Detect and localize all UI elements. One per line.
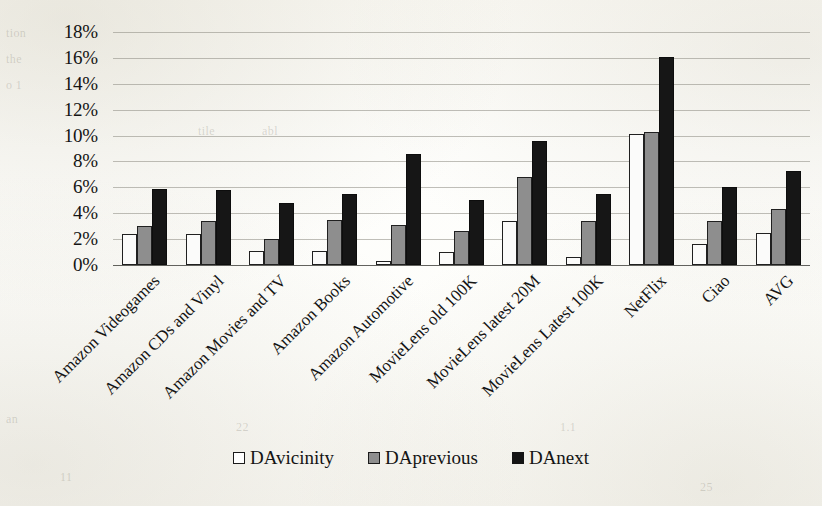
bar-davicinity[interactable]	[756, 233, 771, 265]
legend-item-label: DAprevious	[385, 448, 478, 467]
bar-group	[176, 32, 239, 265]
bar-group	[240, 32, 303, 265]
bar-groups	[113, 32, 810, 265]
y-axis-tick-label: 6%	[73, 177, 98, 196]
bar-group	[620, 32, 683, 265]
bar-daprevious[interactable]	[771, 209, 786, 265]
bar-daprevious[interactable]	[581, 221, 596, 265]
bar-davicinity[interactable]	[186, 234, 201, 265]
bar-davicinity[interactable]	[692, 244, 707, 265]
y-axis-tick-label: 12%	[64, 100, 98, 119]
bar-group	[113, 32, 176, 265]
bar-daprevious[interactable]	[454, 231, 469, 265]
x-axis-tick-label: Amazon Movies and TV	[160, 272, 290, 402]
bar-daprevious[interactable]	[264, 239, 279, 265]
bar-danext[interactable]	[722, 187, 737, 265]
y-axis-tick-label: 14%	[64, 74, 98, 93]
legend-item[interactable]: DAprevious	[368, 448, 478, 467]
legend-swatch-previous	[368, 452, 380, 464]
bar-davicinity[interactable]	[439, 252, 454, 265]
bar-daprevious[interactable]	[644, 132, 659, 265]
y-axis-tick-label: 18%	[64, 22, 98, 41]
y-axis-tick-label: 10%	[64, 126, 98, 145]
bar-danext[interactable]	[596, 194, 611, 265]
x-axis-tick-label: Ciao	[699, 272, 733, 306]
x-axis-tick-label: MovieLens old 100K	[366, 272, 480, 386]
y-axis-tick-label: 8%	[73, 152, 98, 171]
bar-group	[747, 32, 810, 265]
bar-davicinity[interactable]	[566, 257, 581, 265]
bar-davicinity[interactable]	[312, 251, 327, 265]
legend-swatch-next	[512, 452, 524, 464]
y-axis-tick-label: 16%	[64, 48, 98, 67]
legend-item-label: DAvicinity	[250, 448, 334, 467]
bar-davicinity[interactable]	[122, 234, 137, 265]
bar-davicinity[interactable]	[376, 261, 391, 265]
bar-danext[interactable]	[659, 57, 674, 265]
x-axis-baseline	[113, 265, 810, 266]
bar-danext[interactable]	[786, 171, 801, 265]
bar-davicinity[interactable]	[502, 221, 517, 265]
y-axis-tick-label: 0%	[73, 255, 98, 274]
bar-daprevious[interactable]	[201, 221, 216, 265]
bar-group	[366, 32, 429, 265]
y-axis: 18%16%14%12%10%8%6%4%2%0%	[30, 32, 104, 265]
chart-legend: DAvicinityDApreviousDAnext	[0, 448, 822, 467]
x-axis-tick-label: MovieLens latest 20M	[423, 272, 542, 391]
bar-group	[557, 32, 620, 265]
bar-group	[303, 32, 366, 265]
x-axis-tick-label: NetFlix	[621, 272, 669, 320]
bar-danext[interactable]	[342, 194, 357, 265]
grouped-bar-chart: 18%16%14%12%10%8%6%4%2%0% Amazon Videoga…	[0, 0, 822, 506]
bar-danext[interactable]	[279, 203, 294, 265]
bar-daprevious[interactable]	[517, 177, 532, 265]
bar-danext[interactable]	[216, 190, 231, 265]
x-axis-tick-label: Amazon CDs and Vinyl	[101, 272, 227, 398]
bar-daprevious[interactable]	[327, 220, 342, 265]
y-axis-tick-label: 2%	[73, 229, 98, 248]
x-axis-tick-label: AVG	[760, 272, 796, 308]
x-axis-tick-label: Amazon Videogames	[49, 272, 163, 386]
bar-group	[493, 32, 556, 265]
bar-group	[683, 32, 746, 265]
x-axis-tick-label: MovieLens Latest 100K	[479, 272, 606, 399]
bar-group	[430, 32, 493, 265]
bar-daprevious[interactable]	[137, 226, 152, 265]
bar-danext[interactable]	[532, 141, 547, 265]
legend-swatch-vicinity	[233, 452, 245, 464]
legend-item[interactable]: DAnext	[512, 448, 589, 467]
bar-davicinity[interactable]	[249, 251, 264, 265]
y-axis-tick-label: 4%	[73, 203, 98, 222]
bar-daprevious[interactable]	[391, 225, 406, 265]
bar-danext[interactable]	[469, 200, 484, 265]
legend-item-label: DAnext	[529, 448, 589, 467]
legend-item[interactable]: DAvicinity	[233, 448, 334, 467]
bar-daprevious[interactable]	[707, 221, 722, 265]
x-axis: Amazon VideogamesAmazon CDs and VinylAma…	[113, 268, 810, 398]
bar-danext[interactable]	[406, 154, 421, 265]
bar-davicinity[interactable]	[629, 134, 644, 265]
bar-danext[interactable]	[152, 189, 167, 265]
